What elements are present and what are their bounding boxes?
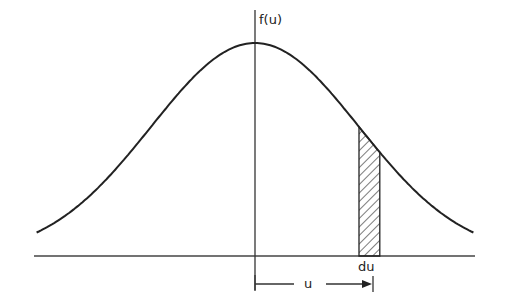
hatched-strip-du bbox=[359, 127, 380, 256]
distance-label: u bbox=[304, 276, 312, 291]
strip-width-label: du bbox=[358, 259, 375, 274]
y-axis-label: f(u) bbox=[259, 12, 282, 27]
arrow-head-icon bbox=[362, 280, 372, 288]
normal-curve-diagram: f(u) du u bbox=[0, 0, 505, 308]
distance-indicator: u bbox=[255, 275, 373, 292]
